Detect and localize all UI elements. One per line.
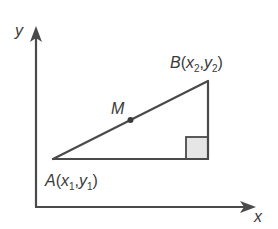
axes: y x	[14, 22, 263, 225]
y-axis-label: y	[14, 22, 24, 39]
coordinate-diagram: y x M B(x2,y2) A(x1,y1)	[0, 0, 278, 229]
right-angle-marker	[186, 137, 208, 159]
point-a-label: A(x1,y1)	[44, 172, 98, 192]
midpoint-m-dot	[128, 117, 134, 123]
x-axis-label: x	[253, 208, 263, 225]
point-m-label: M	[111, 100, 125, 117]
point-b-label: B(x2,y2)	[170, 54, 223, 74]
